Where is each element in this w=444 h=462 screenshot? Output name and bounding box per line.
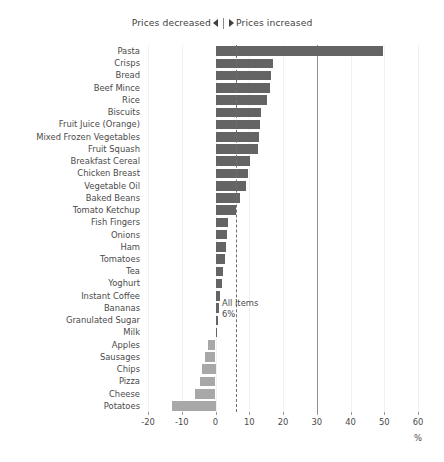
bar-row bbox=[148, 192, 418, 204]
bar-row bbox=[148, 167, 418, 179]
category-label: Breakfast Cereal bbox=[8, 155, 146, 167]
category-label: Pizza bbox=[8, 375, 146, 387]
category-label: Crisps bbox=[8, 57, 146, 69]
bar[interactable] bbox=[216, 108, 262, 118]
axis-tick bbox=[216, 412, 217, 415]
bar-row bbox=[148, 339, 418, 351]
bar[interactable] bbox=[216, 132, 259, 142]
category-label: Instant Coffee bbox=[8, 290, 146, 302]
all-items-reference-line bbox=[236, 45, 237, 412]
prices-increased-label: Prices increased bbox=[236, 18, 312, 27]
category-label: Onions bbox=[8, 229, 146, 241]
axis-tick-label: -10 bbox=[175, 417, 189, 427]
category-label: Milk bbox=[8, 326, 146, 338]
bar-row bbox=[148, 57, 418, 69]
bar-row bbox=[148, 290, 418, 302]
axis-tick bbox=[148, 412, 149, 415]
prices-decreased-label: Prices decreased bbox=[132, 18, 211, 27]
all-items-label: All items bbox=[222, 298, 258, 308]
bar[interactable] bbox=[216, 156, 251, 166]
bar-row bbox=[148, 241, 418, 253]
category-label: Vegetable Oil bbox=[8, 180, 146, 192]
value-axis: -20-100102030405060% bbox=[148, 412, 418, 442]
bar[interactable] bbox=[216, 71, 271, 81]
category-label: Sausages bbox=[8, 351, 146, 363]
bar[interactable] bbox=[208, 340, 215, 350]
axis-tick-label: 50 bbox=[379, 417, 390, 427]
bar[interactable] bbox=[202, 364, 216, 374]
plot-area bbox=[148, 45, 418, 412]
category-label: Apples bbox=[8, 339, 146, 351]
bar[interactable] bbox=[216, 303, 219, 313]
bar-row bbox=[148, 277, 418, 289]
bar[interactable] bbox=[172, 401, 216, 411]
axis-tick-label: 20 bbox=[278, 417, 289, 427]
bar-row bbox=[148, 82, 418, 94]
bar[interactable] bbox=[205, 352, 215, 362]
bar-row bbox=[148, 363, 418, 375]
price-change-chart: Prices decreased Prices increased PastaC… bbox=[0, 0, 444, 462]
bar-row bbox=[148, 375, 418, 387]
bar[interactable] bbox=[216, 254, 225, 264]
category-label: Baked Beans bbox=[8, 192, 146, 204]
category-label: Bread bbox=[8, 69, 146, 81]
bar-row bbox=[148, 388, 418, 400]
bar[interactable] bbox=[216, 218, 228, 228]
bar-row bbox=[148, 118, 418, 130]
bar[interactable] bbox=[216, 328, 217, 338]
category-label: Rice bbox=[8, 94, 146, 106]
axis-tick bbox=[351, 412, 352, 415]
bar-row bbox=[148, 326, 418, 338]
bar[interactable] bbox=[216, 291, 220, 301]
category-label: Ham bbox=[8, 241, 146, 253]
bar[interactable] bbox=[216, 59, 273, 69]
category-label: Potatoes bbox=[8, 400, 146, 412]
category-label: Granulated Sugar bbox=[8, 314, 146, 326]
bar[interactable] bbox=[216, 230, 227, 240]
bar[interactable] bbox=[216, 242, 226, 252]
bar[interactable] bbox=[195, 389, 216, 399]
category-label: Fruit Squash bbox=[8, 143, 146, 155]
bar-row bbox=[148, 265, 418, 277]
bar-row bbox=[148, 216, 418, 228]
bar-row bbox=[148, 314, 418, 326]
bar[interactable] bbox=[216, 120, 260, 130]
bar[interactable] bbox=[216, 46, 383, 56]
axis-tick-label: 10 bbox=[244, 417, 255, 427]
bar[interactable] bbox=[216, 83, 270, 93]
all-items-value: 6% bbox=[222, 309, 258, 320]
bar[interactable] bbox=[216, 267, 224, 277]
gridline bbox=[418, 45, 419, 412]
axis-tick-label: -20 bbox=[141, 417, 155, 427]
axis-tick bbox=[283, 412, 284, 415]
category-label: Beef Mince bbox=[8, 82, 146, 94]
category-label: Cheese bbox=[8, 388, 146, 400]
bar[interactable] bbox=[216, 95, 268, 105]
bar[interactable] bbox=[216, 169, 248, 179]
axis-tick bbox=[249, 412, 250, 415]
legend-divider bbox=[223, 18, 224, 29]
category-label: Biscuits bbox=[8, 106, 146, 118]
bar-row bbox=[148, 143, 418, 155]
bar[interactable] bbox=[216, 205, 237, 215]
bar[interactable] bbox=[216, 316, 218, 326]
category-axis: PastaCrispsBreadBeef MinceRiceBiscuitsFr… bbox=[0, 45, 146, 412]
bar[interactable] bbox=[200, 377, 216, 387]
axis-tick bbox=[418, 412, 419, 415]
axis-tick-label: 0 bbox=[213, 417, 218, 427]
bar-row bbox=[148, 106, 418, 118]
category-label: Fruit Juice (Orange) bbox=[8, 118, 146, 130]
category-label: Chips bbox=[8, 363, 146, 375]
category-label: Fish Fingers bbox=[8, 216, 146, 228]
bar[interactable] bbox=[216, 181, 246, 191]
axis-unit-label: % bbox=[414, 433, 422, 443]
bar-row bbox=[148, 302, 418, 314]
axis-tick-label: 60 bbox=[413, 417, 424, 427]
category-label: Pasta bbox=[8, 45, 146, 57]
category-label: Tomatoes bbox=[8, 253, 146, 265]
bar-row bbox=[148, 180, 418, 192]
category-label: Tea bbox=[8, 265, 146, 277]
bar-row bbox=[148, 131, 418, 143]
category-label: Bananas bbox=[8, 302, 146, 314]
bar[interactable] bbox=[216, 279, 222, 289]
